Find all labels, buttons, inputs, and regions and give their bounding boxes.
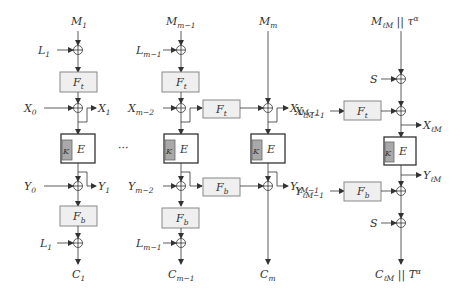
label-y0: Y0 <box>24 180 36 195</box>
label-c-lm-t: CℓM || Tα <box>375 267 421 283</box>
column-block-1: M1 L1 Ft X0 X1 K E Y0 Y1 Fb L1 C1 <box>23 15 111 283</box>
cipher-label: E <box>76 143 85 156</box>
label-l1-top: L1 <box>37 44 50 59</box>
label-x1: X1 <box>97 102 111 117</box>
key-label: K <box>384 149 392 158</box>
label-x0: X0 <box>23 102 37 117</box>
xor-icon <box>264 182 273 191</box>
xor-icon <box>397 75 406 84</box>
cipher-label: E <box>266 143 275 156</box>
label-c-m: Cm <box>260 268 276 283</box>
xor-icon <box>397 187 406 196</box>
ellipsis: ··· <box>118 142 129 155</box>
label-m-m-1: Mm−1 <box>165 15 195 30</box>
label-l1-bottom: L1 <box>39 237 52 252</box>
label-m-m: Mm <box>258 15 277 30</box>
xor-icon <box>74 46 83 55</box>
label-y-m-2: Ym−2 <box>128 180 154 195</box>
key-label: K <box>165 147 173 156</box>
diagram-canvas: M1 L1 Ft X0 X1 K E Y0 Y1 Fb L1 C1 ··· <box>0 0 464 294</box>
column-block-m-1: Mm−1 Lm−1 Ft Xm−2 K E Ym−2 Fb Lm−1 Cm−1 <box>127 15 202 283</box>
label-m1: M1 <box>70 15 87 30</box>
label-l-m-1-top: Lm−1 <box>135 44 161 59</box>
cipher-label: E <box>179 143 188 156</box>
xor-icon <box>74 239 83 248</box>
xor-icon <box>177 104 186 113</box>
label-y-lm: YℓM <box>423 169 441 184</box>
label-x-m-2: Xm−2 <box>127 102 154 117</box>
xor-icon <box>177 46 186 55</box>
column-block-final: MℓM || τα S XℓM−1 Ft XℓM K E YℓM YℓM−1 F… <box>294 14 442 283</box>
xor-icon <box>264 104 273 113</box>
xor-icon <box>177 182 186 191</box>
cipher-label: E <box>398 145 407 158</box>
label-y1: Y1 <box>98 180 110 195</box>
key-label: K <box>62 147 70 156</box>
label-x-lm: XℓM <box>422 119 442 134</box>
label-c1: C1 <box>72 268 85 283</box>
xor-icon <box>397 107 406 116</box>
label-s-top: S <box>370 73 378 86</box>
label-l-m-1-bottom: Lm−1 <box>135 237 161 252</box>
xor-icon <box>177 239 186 248</box>
xor-icon <box>74 182 83 191</box>
xor-icon <box>74 104 83 113</box>
label-c-m-1: Cm−1 <box>168 268 195 283</box>
key-label: K <box>252 147 260 156</box>
label-m-lm-tau: MℓM || τα <box>370 14 419 30</box>
label-s-bottom: S <box>370 217 378 230</box>
xor-icon <box>397 219 406 228</box>
column-block-m: Mm XℓM−1 K E YℓM−1 Cm <box>251 15 320 283</box>
